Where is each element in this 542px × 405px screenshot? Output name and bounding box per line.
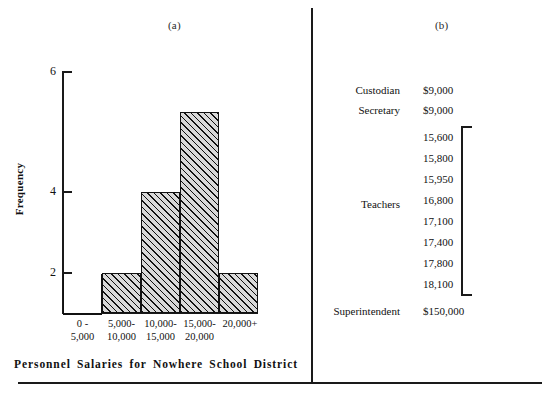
amount-teacher-5: 17,100 [423,215,517,227]
bar-bin-2 [141,192,180,313]
role-label-superintendent: Superintendent [333,305,400,317]
y-tick-4 [62,191,72,193]
amount-teacher-1: 15,600 [423,131,517,143]
amount-teacher-8: 18,100 [423,278,517,290]
role-label-custodian: Custodian [355,84,400,96]
y-axis-title: Frequency [13,149,25,229]
amount-custodian: $9,000 [423,84,517,96]
bar-bin-3 [180,112,219,313]
amount-teacher-3: 15,950 [423,173,517,185]
bar-bin-1 [102,273,141,313]
bar-bin-4 [219,273,258,313]
panel-a-tag: (a) [168,19,181,31]
y-tick-label-4: 4 [34,184,56,199]
amount-teacher-6: 17,400 [423,236,517,248]
role-label-teachers: Teachers [361,198,400,210]
amount-teacher-7: 17,800 [423,257,517,269]
bar-bin-0-box [63,274,102,313]
x-axis-title: Personnel Salaries for Nowhere School Di… [10,358,302,370]
panel-b-tag: (b) [435,19,448,31]
panel-b-salary-list: (b) Custodian $9,000 Secretary $9,000 Te… [311,0,542,405]
y-tick-label-2: 2 [34,265,56,280]
amount-secretary: $9,000 [423,104,517,116]
panel-a-histogram: (a) Frequency 6 4 2 0 - 5,000 5,000- 10,… [0,0,311,405]
panel-divider-vertical [311,8,313,383]
x-cat-4: 20,000+ [214,317,266,330]
figure-bottom-rule [18,382,542,384]
amount-superintendent: $150,000 [423,305,517,317]
bar-bin-0 [63,313,102,315]
y-tick-6 [62,71,72,73]
amount-teacher-2: 15,800 [423,152,517,164]
role-label-secretary: Secretary [358,104,400,116]
amount-teacher-4: 16,800 [423,194,517,206]
figure-container: (a) Frequency 6 4 2 0 - 5,000 5,000- 10,… [0,0,542,405]
y-tick-label-6: 6 [34,64,56,79]
